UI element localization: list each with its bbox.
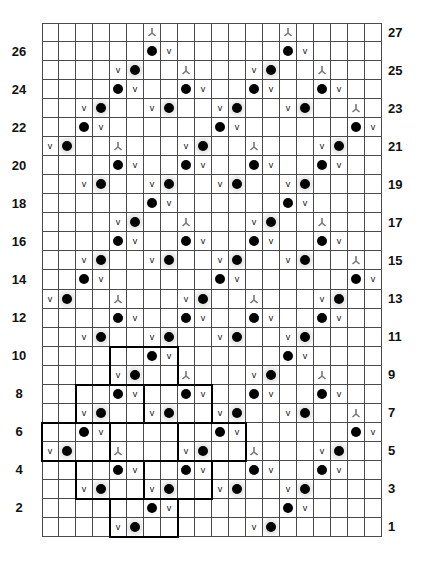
chart-cell <box>161 61 178 80</box>
chart-cell <box>195 499 212 518</box>
chart-cell <box>42 156 59 175</box>
v-symbol: v <box>99 123 104 132</box>
v-symbol: v <box>133 161 138 170</box>
chart-cell <box>110 309 127 328</box>
chart-cell <box>314 251 331 270</box>
chart-cell <box>127 366 144 385</box>
chart-cell <box>212 309 229 328</box>
chart-cell <box>76 137 93 156</box>
chart-cell <box>195 99 212 118</box>
chart-cell <box>246 423 263 442</box>
v-symbol: v <box>201 390 206 399</box>
chart-cell <box>93 80 110 99</box>
chart-cell: v <box>93 270 110 289</box>
chart-cell <box>161 328 178 347</box>
chart-cell: v <box>76 404 93 423</box>
chart-cell: v <box>263 80 280 99</box>
bobble-dot-icon <box>182 237 190 245</box>
v-symbol: v <box>303 47 308 56</box>
chart-cell <box>59 270 76 289</box>
bobble-dot-icon <box>97 104 105 112</box>
chart-cell <box>297 61 314 80</box>
chart-cell <box>110 328 127 347</box>
v-symbol: v <box>286 333 291 342</box>
chart-cell <box>348 156 365 175</box>
chart-cell <box>212 270 229 289</box>
chart-cell <box>76 290 93 309</box>
v-symbol: v <box>116 66 121 75</box>
v-symbol: v <box>269 390 274 399</box>
chart-cell <box>365 366 382 385</box>
chart-cell <box>144 156 161 175</box>
chart-cell: v <box>365 118 382 137</box>
bobble-dot-icon <box>250 85 258 93</box>
row-number-4: 4 <box>4 462 34 477</box>
v-symbol: v <box>286 256 291 265</box>
v-symbol: v <box>116 523 121 532</box>
chart-cell <box>195 251 212 270</box>
bobble-dot-icon <box>63 447 71 455</box>
chart-cell <box>229 213 246 232</box>
chart-cell: v <box>263 461 280 480</box>
chart-cell <box>161 461 178 480</box>
chart-cell <box>348 175 365 194</box>
chart-cell <box>93 404 110 423</box>
chart-cell <box>280 232 297 251</box>
chart-cell <box>42 80 59 99</box>
chart-cell <box>229 518 246 537</box>
chart-cell: v <box>93 423 110 442</box>
chart-cell <box>348 423 365 442</box>
chart-cell: v <box>280 175 297 194</box>
chart-cell <box>93 328 110 347</box>
v-symbol: v <box>252 523 257 532</box>
chart-cell <box>229 42 246 61</box>
chart-cell <box>42 423 59 442</box>
chart-cell <box>42 499 59 518</box>
v-symbol: v <box>99 428 104 437</box>
chart-cell <box>263 137 280 156</box>
chart-cell <box>280 156 297 175</box>
chart-cell <box>246 42 263 61</box>
chart-cell: v <box>144 404 161 423</box>
chart-cell: v <box>229 423 246 442</box>
v-symbol: v <box>371 123 376 132</box>
chart-cell <box>331 290 348 309</box>
chart-cell <box>348 404 365 423</box>
v-symbol: v <box>82 256 87 265</box>
bobble-dot-icon <box>165 485 173 493</box>
chart-cell <box>229 480 246 499</box>
chart-cell <box>127 194 144 213</box>
chart-cell <box>365 251 382 270</box>
chart-cell <box>297 290 314 309</box>
chart-cell <box>314 461 331 480</box>
chart-cell <box>59 385 76 404</box>
chart-cell <box>195 213 212 232</box>
chart-cell <box>263 99 280 118</box>
chart-cell <box>365 99 382 118</box>
chart-cell <box>93 251 110 270</box>
chart-cell <box>144 23 161 42</box>
v-symbol: v <box>150 409 155 418</box>
chart-cell <box>229 499 246 518</box>
bobble-dot-icon <box>233 333 241 341</box>
chart-cell <box>76 385 93 404</box>
chart-cell <box>110 423 127 442</box>
chart-cell <box>297 270 314 289</box>
chart-cell <box>365 385 382 404</box>
chart-cell <box>212 213 229 232</box>
chart-cell <box>144 347 161 366</box>
chart-cell <box>314 328 331 347</box>
chart-cell <box>348 480 365 499</box>
chart-cell: v <box>144 99 161 118</box>
chart-cell: v <box>331 461 348 480</box>
chart-cell <box>297 99 314 118</box>
chart-cell <box>59 175 76 194</box>
chart-cell <box>246 251 263 270</box>
chart-cell <box>161 270 178 289</box>
chart-cell <box>246 347 263 366</box>
chart-cell <box>246 175 263 194</box>
chart-cell <box>246 232 263 251</box>
chart-cell: v <box>229 270 246 289</box>
v-symbol: v <box>133 466 138 475</box>
v-symbol: v <box>269 237 274 246</box>
